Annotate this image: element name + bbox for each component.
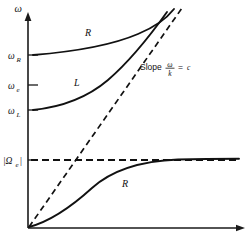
tick-label-omega-L-main: ω (8, 106, 15, 116)
tick-label-Omega-e-tail: | (20, 156, 23, 166)
slope-annotation-value: c (187, 63, 191, 72)
dispersion-figure: ω ω R ω e ω L |Ω e | R L R Slope ω k (0, 0, 251, 241)
slope-annotation: Slope ω k = c (140, 60, 191, 78)
slope-annotation-denominator: k (168, 69, 172, 78)
dispersion-plot-canvas: ω ω R ω e ω L |Ω e | R L R Slope ω k (0, 0, 251, 241)
y-axis-arrow (25, 12, 32, 21)
slope-annotation-word: Slope (140, 62, 162, 72)
tick-label-omega-e: ω e (8, 81, 20, 94)
tick-label-omega-e-main: ω (8, 81, 15, 91)
curve-lower-R (29, 159, 239, 227)
curve-label-upper-R: R (84, 27, 91, 38)
axes-group (25, 12, 245, 231)
tick-label-Omega-e: |Ω e | (3, 156, 22, 169)
light-line-dashed (29, 8, 182, 227)
y-axis-label: ω (15, 3, 22, 14)
tick-label-Omega-e-sub: e (16, 161, 19, 169)
curve-L (33, 12, 167, 110)
tick-label-omega-R: ω R (8, 51, 22, 64)
tick-label-omega-e-sub: e (17, 86, 20, 94)
y-tick-marks (28, 55, 38, 160)
curve-label-L: L (73, 77, 80, 88)
tick-label-omega-R-main: ω (8, 51, 15, 61)
tick-label-omega-L-sub: L (16, 111, 21, 119)
tick-label-omega-L: ω L (8, 106, 21, 119)
x-axis-arrow (236, 225, 245, 232)
curve-label-lower-R: R (121, 178, 128, 189)
tick-label-omega-R-sub: R (16, 56, 22, 64)
slope-annotation-equals: = (178, 62, 183, 72)
tick-label-Omega-e-main: |Ω (3, 156, 13, 166)
slope-annotation-numerator: ω (167, 60, 172, 69)
